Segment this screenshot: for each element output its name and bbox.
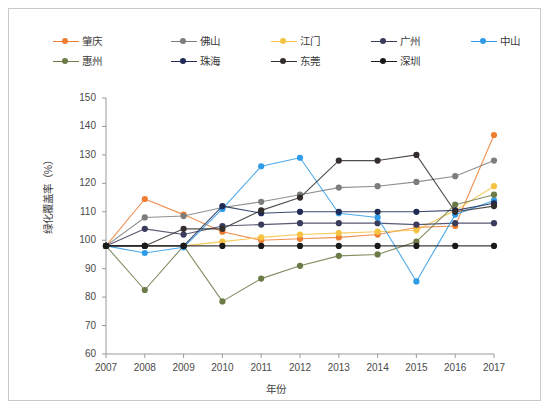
data-point xyxy=(491,157,497,163)
data-point xyxy=(142,250,148,256)
data-point xyxy=(375,229,381,235)
y-axis-title: 绿化覆盖率（%） xyxy=(40,135,55,255)
data-point xyxy=(297,231,303,237)
data-point xyxy=(103,243,109,249)
data-point xyxy=(181,243,187,249)
x-axis-tick-label: 2011 xyxy=(241,362,281,373)
data-point xyxy=(297,194,303,200)
data-point xyxy=(413,227,419,233)
data-point xyxy=(181,231,187,237)
data-point xyxy=(375,157,381,163)
data-point xyxy=(375,243,381,249)
x-axis-tick-label: 2008 xyxy=(125,362,165,373)
x-axis-tick-label: 2012 xyxy=(280,362,320,373)
x-axis-tick-label: 2010 xyxy=(202,362,242,373)
data-point xyxy=(219,298,225,304)
x-axis-tick-label: 2016 xyxy=(435,362,475,373)
data-point xyxy=(452,209,458,215)
data-point xyxy=(181,226,187,232)
data-point xyxy=(375,209,381,215)
data-point xyxy=(336,157,342,163)
data-point xyxy=(452,220,458,226)
data-point xyxy=(491,220,497,226)
data-point xyxy=(258,207,264,213)
data-point xyxy=(297,243,303,249)
data-point xyxy=(142,287,148,293)
data-point xyxy=(142,226,148,232)
data-point xyxy=(336,220,342,226)
chart-figure: 肇庆佛山江门广州中山惠州珠海东莞深圳 绿化覆盖率（%） 年份 150140130… xyxy=(8,8,541,401)
y-axis-tick-label: 130 xyxy=(70,149,96,160)
data-point xyxy=(258,163,264,169)
data-point xyxy=(336,185,342,191)
data-point xyxy=(297,155,303,161)
data-point xyxy=(336,243,342,249)
data-point xyxy=(413,152,419,158)
data-point xyxy=(491,243,497,249)
data-point xyxy=(142,214,148,220)
x-axis-tick-label: 2014 xyxy=(358,362,398,373)
data-point xyxy=(452,173,458,179)
data-point xyxy=(491,183,497,189)
data-point xyxy=(413,221,419,227)
y-axis-tick-label: 80 xyxy=(70,291,96,302)
y-axis-tick-label: 150 xyxy=(70,92,96,103)
data-point xyxy=(413,209,419,215)
data-point xyxy=(452,243,458,249)
data-point xyxy=(375,251,381,257)
series-line xyxy=(106,135,494,246)
data-point xyxy=(142,243,148,249)
data-point xyxy=(219,226,225,232)
data-point xyxy=(297,263,303,269)
data-point xyxy=(413,179,419,185)
data-point xyxy=(336,209,342,215)
data-point xyxy=(142,196,148,202)
x-axis-tick-label: 2017 xyxy=(474,362,514,373)
data-point xyxy=(491,192,497,198)
data-point xyxy=(219,243,225,249)
data-point xyxy=(336,230,342,236)
data-point xyxy=(181,213,187,219)
x-axis-tick-label: 2007 xyxy=(86,362,126,373)
data-point xyxy=(258,234,264,240)
data-point xyxy=(219,203,225,209)
y-axis-tick-label: 140 xyxy=(70,120,96,131)
y-axis-tick-label: 90 xyxy=(70,263,96,274)
x-axis-tick-label: 2015 xyxy=(396,362,436,373)
data-point xyxy=(258,243,264,249)
x-axis-tick-label: 2013 xyxy=(319,362,359,373)
data-point xyxy=(491,132,497,138)
data-point xyxy=(375,214,381,220)
data-point xyxy=(413,243,419,249)
plot-area: 绿化覆盖率（%） 年份 1501401301201101009080706020… xyxy=(9,9,542,402)
data-point xyxy=(258,221,264,227)
data-point xyxy=(413,278,419,284)
data-point xyxy=(297,220,303,226)
y-axis-tick-label: 110 xyxy=(70,206,96,217)
data-point xyxy=(258,199,264,205)
y-axis-tick-label: 120 xyxy=(70,177,96,188)
data-point xyxy=(336,253,342,259)
x-axis-tick-label: 2009 xyxy=(164,362,204,373)
data-point xyxy=(297,209,303,215)
y-axis-tick-label: 60 xyxy=(70,348,96,359)
data-point xyxy=(452,202,458,208)
y-axis-tick-label: 70 xyxy=(70,320,96,331)
data-point xyxy=(375,183,381,189)
y-axis-tick-label: 100 xyxy=(70,234,96,245)
data-point xyxy=(258,276,264,282)
data-point xyxy=(491,203,497,209)
x-axis-title: 年份 xyxy=(9,381,542,396)
